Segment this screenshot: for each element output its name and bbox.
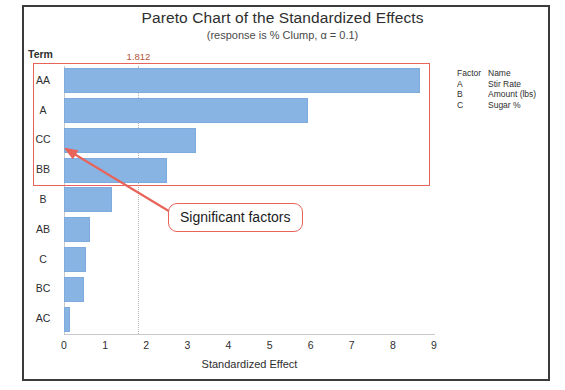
y-tick-label-cc: CC <box>26 133 60 145</box>
chart-subtitle: (response is % Clump, α = 0.1) <box>0 29 565 41</box>
x-tick-1: 1 <box>95 339 115 351</box>
legend-factor-b: B <box>457 89 488 100</box>
x-tick-2: 2 <box>136 339 156 351</box>
bar-row <box>64 245 434 275</box>
pareto-chart-figure: Pareto Chart of the Standardized Effects… <box>0 0 565 390</box>
y-tick-label-ac: AC <box>26 312 60 324</box>
x-axis-title: Standardized Effect <box>64 358 435 370</box>
x-tick-8: 8 <box>383 339 403 351</box>
bar-bb <box>64 158 167 183</box>
y-tick-label-aa: AA <box>26 74 60 86</box>
legend-header-name: Name <box>488 68 548 79</box>
bar-row <box>64 66 434 96</box>
legend-header-row: Factor Name <box>457 68 548 79</box>
x-tick-0: 0 <box>54 339 74 351</box>
legend-rows: AStir RateBAmount (lbs)CSugar % <box>457 79 548 111</box>
x-tick-5: 5 <box>260 339 280 351</box>
legend-row: CSugar % <box>457 100 548 111</box>
bar-row <box>64 274 434 304</box>
legend-name-b: Amount (lbs) <box>488 89 548 100</box>
legend-row: AStir Rate <box>457 79 548 90</box>
x-tick-6: 6 <box>301 339 321 351</box>
y-tick-label-b: B <box>26 193 60 205</box>
bar-row <box>64 126 434 156</box>
bar-aa <box>64 68 420 93</box>
y-tick-label-c: C <box>26 253 60 265</box>
legend-name-a: Stir Rate <box>488 79 548 90</box>
y-axis-header: Term <box>28 48 53 60</box>
bar-bc <box>64 277 84 302</box>
x-tick-9: 9 <box>424 339 444 351</box>
x-tick-3: 3 <box>177 339 197 351</box>
bar-row <box>64 155 434 185</box>
y-tick-label-ab: AB <box>26 223 60 235</box>
x-tick-4: 4 <box>218 339 238 351</box>
bar-row <box>64 304 434 334</box>
legend-name-c: Sugar % <box>488 100 548 111</box>
bar-row <box>64 96 434 126</box>
y-tick-label-a: A <box>26 104 60 116</box>
legend-header-factor: Factor <box>457 68 488 79</box>
bar-ac <box>64 307 70 332</box>
legend-factor-a: A <box>457 79 488 90</box>
legend-row: BAmount (lbs) <box>457 89 548 100</box>
bar-a <box>64 98 308 123</box>
reference-line-label: 1.812 <box>127 51 151 62</box>
significant-factors-callout: Significant factors <box>168 203 303 232</box>
x-axis-line <box>64 334 435 335</box>
chart-title: Pareto Chart of the Standardized Effects <box>0 9 565 27</box>
y-tick-label-bc: BC <box>26 282 60 294</box>
x-tick-7: 7 <box>342 339 362 351</box>
legend-factor-c: C <box>457 100 488 111</box>
bar-c <box>64 247 86 272</box>
bar-b <box>64 187 112 212</box>
bar-ab <box>64 217 90 242</box>
factor-legend: Factor Name AStir RateBAmount (lbs)CSuga… <box>457 68 548 110</box>
bar-cc <box>64 128 196 153</box>
y-tick-label-bb: BB <box>26 163 60 175</box>
